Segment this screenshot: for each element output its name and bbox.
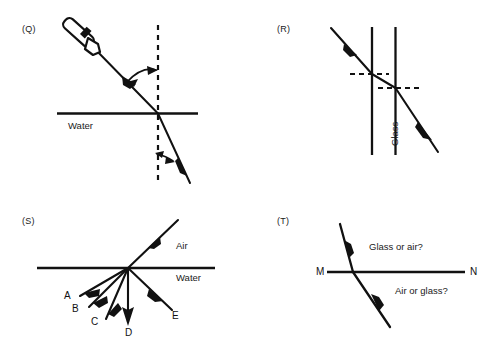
panel-t-incident-ray xyxy=(340,224,354,272)
panel-t-graphics xyxy=(0,0,498,354)
panel-t-upper-question: Glass or air? xyxy=(369,241,423,252)
panel-t-lower-question: Air or glass? xyxy=(395,285,448,296)
panel-t-label-m: M xyxy=(316,266,324,277)
refraction-figure-sheet: (Q) Water xyxy=(0,0,498,354)
panel-t-refracted-ray xyxy=(353,272,390,327)
panel-t-label-n: N xyxy=(470,266,477,277)
